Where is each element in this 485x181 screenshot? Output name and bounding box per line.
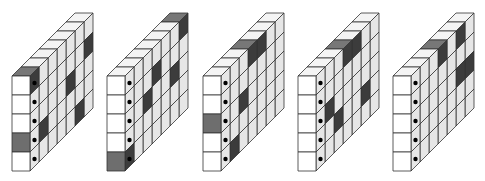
front-cell xyxy=(393,114,411,133)
figure-4 xyxy=(298,13,379,171)
dot-marker xyxy=(223,138,227,142)
front-cell xyxy=(203,133,221,152)
front-cell xyxy=(203,114,221,133)
front-cell xyxy=(298,114,316,133)
front-cell xyxy=(393,152,411,171)
front-cell xyxy=(393,76,411,95)
dot-marker xyxy=(32,100,36,104)
front-cell xyxy=(107,133,125,152)
dot-marker xyxy=(318,119,322,123)
front-cell xyxy=(298,133,316,152)
front-cell xyxy=(12,76,30,95)
dot-marker xyxy=(127,157,131,161)
dot-marker xyxy=(32,119,36,123)
dot-marker xyxy=(223,81,227,85)
front-cell xyxy=(203,152,221,171)
front-cell xyxy=(12,152,30,171)
front-cell xyxy=(12,133,30,152)
figure-5 xyxy=(393,13,474,171)
dot-marker xyxy=(413,119,417,123)
front-cell xyxy=(298,152,316,171)
front-cell xyxy=(203,95,221,114)
dot-marker xyxy=(223,157,227,161)
dot-marker xyxy=(318,81,322,85)
figure-3 xyxy=(203,13,284,171)
front-cell xyxy=(393,95,411,114)
dot-marker xyxy=(318,157,322,161)
front-cell xyxy=(203,76,221,95)
dot-marker xyxy=(32,157,36,161)
dot-marker xyxy=(413,81,417,85)
front-cell xyxy=(12,114,30,133)
dot-marker xyxy=(413,100,417,104)
front-cell xyxy=(107,95,125,114)
cube-puzzle-diagram xyxy=(0,0,485,181)
dot-marker xyxy=(127,119,131,123)
dot-marker xyxy=(318,138,322,142)
front-cell xyxy=(107,152,125,171)
figure-2 xyxy=(107,13,188,171)
figure-1 xyxy=(12,13,93,171)
front-cell xyxy=(298,95,316,114)
dot-marker xyxy=(127,100,131,104)
dot-marker xyxy=(127,81,131,85)
dot-marker xyxy=(127,138,131,142)
front-cell xyxy=(298,76,316,95)
dot-marker xyxy=(413,138,417,142)
front-cell xyxy=(12,95,30,114)
dot-marker xyxy=(32,81,36,85)
front-cell xyxy=(107,76,125,95)
dot-marker xyxy=(318,100,322,104)
dot-marker xyxy=(413,157,417,161)
dot-marker xyxy=(223,100,227,104)
front-cell xyxy=(393,133,411,152)
dot-marker xyxy=(223,119,227,123)
dot-marker xyxy=(32,138,36,142)
front-cell xyxy=(107,114,125,133)
